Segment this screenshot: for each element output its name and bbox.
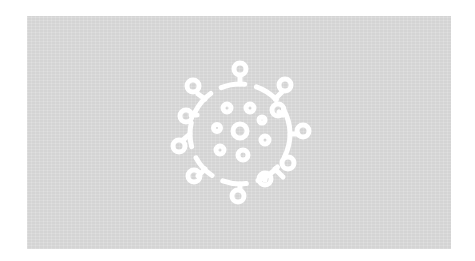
virus-icon	[27, 16, 451, 249]
image-panel	[27, 16, 451, 249]
